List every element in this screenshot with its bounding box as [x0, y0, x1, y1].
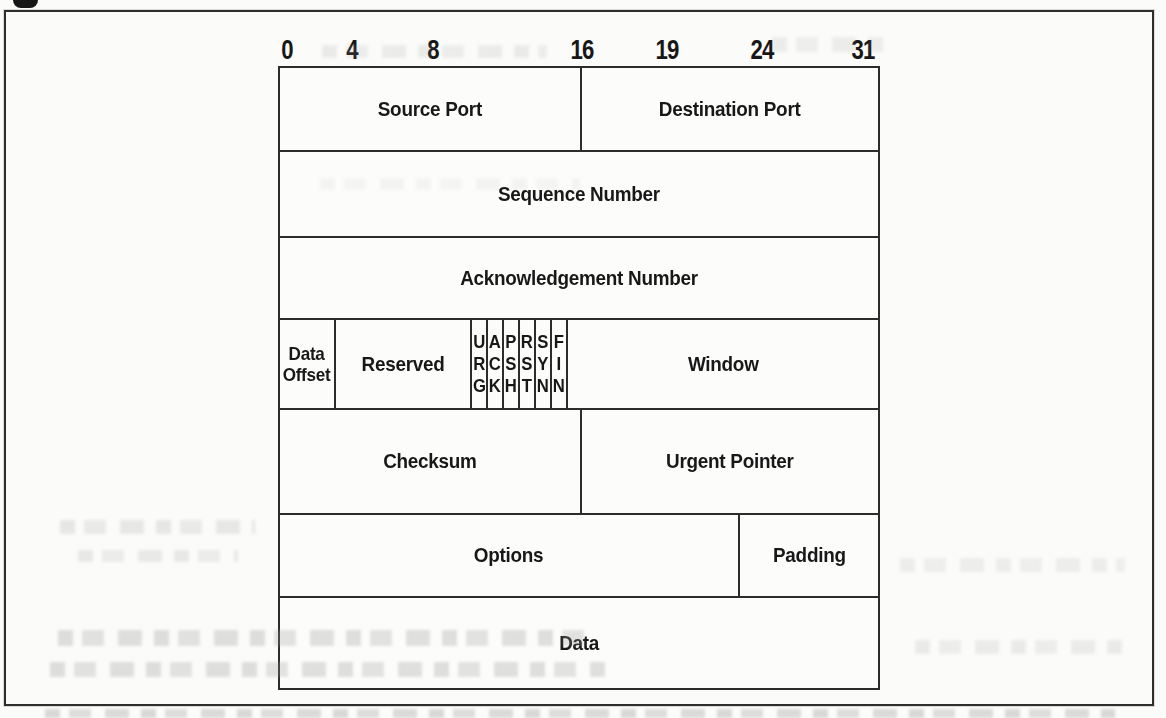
flag-psh-label: P S H: [505, 331, 517, 397]
field-window-label: Window: [688, 352, 759, 376]
field-acknowledgement-number: Acknowledgement Number: [280, 238, 878, 318]
field-reserved-label: Reserved: [362, 352, 445, 376]
bit-tick-8: 8: [427, 37, 439, 64]
flag-psh: P S H: [504, 320, 520, 408]
tcp-header-diagram: Source Port Destination Port Sequence Nu…: [278, 66, 880, 690]
bit-tick-16: 16: [571, 37, 594, 64]
bit-ruler: 0 4 8 16 19 24 31: [278, 34, 880, 64]
flag-rst: R S T: [520, 320, 536, 408]
cropped-figure-label-fragment: [13, 0, 38, 8]
flag-ack: A C K: [488, 320, 504, 408]
field-source-port-label: Source Port: [378, 97, 482, 121]
field-checksum-label: Checksum: [383, 449, 476, 473]
flag-fin-label: F I N: [553, 331, 565, 397]
field-destination-port-label: Destination Port: [659, 97, 801, 121]
field-reserved: Reserved: [336, 320, 472, 408]
field-source-port: Source Port: [280, 68, 582, 150]
row-checksum-urgent: Checksum Urgent Pointer: [280, 410, 878, 515]
flag-fin: F I N: [552, 320, 568, 408]
bleed-through-artifact: [45, 709, 1115, 718]
row-sequence-number: Sequence Number: [280, 152, 878, 238]
field-data-offset-label: Data Offset: [283, 343, 331, 385]
bit-tick-0: 0: [281, 37, 293, 64]
field-options-label: Options: [474, 543, 544, 567]
flag-urg: U R G: [472, 320, 488, 408]
field-data-offset: Data Offset: [280, 320, 336, 408]
flag-syn: S Y N: [536, 320, 552, 408]
row-offset-flags-window: Data Offset Reserved U R G A C K P S H R…: [280, 320, 878, 410]
field-checksum: Checksum: [280, 410, 582, 513]
field-data-label: Data: [559, 631, 599, 655]
field-padding-label: Padding: [773, 543, 846, 567]
scanned-book-page: { "colors": { "paper": "#fbfbf9", "ink":…: [0, 0, 1166, 718]
row-acknowledgement-number: Acknowledgement Number: [280, 238, 878, 320]
field-data: Data: [280, 598, 878, 688]
flag-urg-label: U R G: [472, 331, 485, 397]
field-sequence-number-label: Sequence Number: [498, 182, 660, 206]
flag-syn-label: S Y N: [537, 331, 549, 397]
field-urgent-pointer-label: Urgent Pointer: [666, 449, 793, 473]
field-destination-port: Destination Port: [582, 68, 878, 150]
field-sequence-number: Sequence Number: [280, 152, 878, 236]
flag-ack-label: A C K: [489, 331, 501, 397]
field-urgent-pointer: Urgent Pointer: [582, 410, 878, 513]
row-data: Data: [280, 598, 878, 688]
row-options-padding: Options Padding: [280, 515, 878, 598]
bit-tick-19: 19: [656, 37, 679, 64]
field-options: Options: [280, 515, 740, 596]
field-acknowledgement-number-label: Acknowledgement Number: [460, 266, 698, 290]
bit-tick-31: 31: [852, 37, 875, 64]
bit-tick-4: 4: [346, 37, 358, 64]
field-padding: Padding: [740, 515, 878, 596]
row-ports: Source Port Destination Port: [280, 68, 878, 152]
field-window: Window: [568, 320, 878, 408]
bit-tick-24: 24: [751, 37, 774, 64]
flag-rst-label: R S T: [521, 331, 533, 397]
